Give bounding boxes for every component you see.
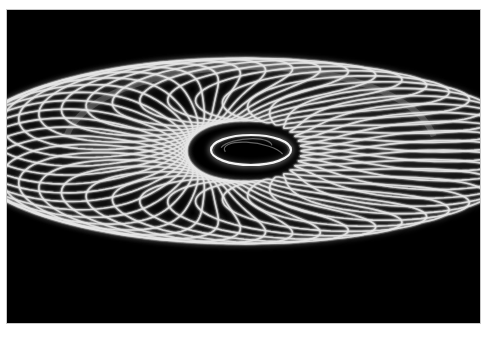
photo-frame: Spirograph light-painting torus on black… [7, 10, 480, 323]
spirograph-torus-image [7, 10, 480, 323]
